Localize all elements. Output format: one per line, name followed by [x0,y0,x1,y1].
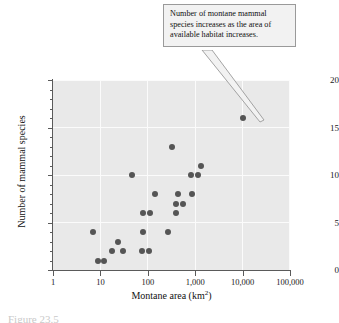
x-axis-tick [148,271,149,276]
data-point [147,210,153,216]
y-axis-tick [48,128,53,129]
y-axis-minor-tick [50,137,53,138]
data-point [175,191,181,197]
data-point [195,172,201,178]
data-point [101,258,107,264]
y-axis-minor-tick [50,204,53,205]
data-point [90,229,96,235]
data-point [173,210,179,216]
x-axis-tick-label: 100 [141,277,154,287]
y-axis-tick [48,175,53,176]
data-point [240,115,246,121]
y-axis-minor-tick [50,185,53,186]
y-axis-minor-tick [50,99,53,100]
data-point [129,172,135,178]
y-axis-tick-label: 0 [293,266,339,275]
y-axis-minor-tick [50,242,53,243]
x-axis-tick [290,271,291,276]
figure-caption: Figure 23.5 [8,313,59,323]
y-axis-minor-tick [50,118,53,119]
gridline-horizontal [53,222,290,223]
x-axis-line [52,270,291,271]
data-point [146,248,152,254]
data-point [140,229,146,235]
data-point [165,229,171,235]
data-point [173,201,179,207]
data-point [180,201,186,207]
x-axis-tick [100,271,101,276]
y-axis-title: Number of mammal species [16,87,27,257]
x-axis-tick-label: 10 [96,277,105,287]
x-axis-tick-label: 100,000 [276,277,304,287]
data-point [139,248,145,254]
y-axis-minor-tick [50,166,53,167]
y-axis-minor-tick [50,90,53,91]
y-axis-minor-tick [50,147,53,148]
y-axis-minor-tick [50,261,53,262]
annotation-text: Number of montane mammal species increas… [170,9,271,39]
data-point [109,248,115,254]
x-axis-tick-label: 1 [51,277,55,287]
y-axis-minor-tick [50,156,53,157]
y-axis-tick-label: 15 [293,124,339,133]
x-axis-tick-label: 10,000 [231,277,254,287]
x-axis-tick [53,271,54,276]
data-point [198,163,204,169]
y-axis-tick [48,80,53,81]
x-axis-title-tail: ) [208,290,211,301]
data-point [152,191,158,197]
data-point [169,144,175,150]
x-axis-tick [243,271,244,276]
y-axis-tick-label: 5 [293,219,339,228]
y-axis-minor-tick [50,213,53,214]
y-axis-tick-label: 20 [293,76,339,85]
plot-area [53,80,290,270]
y-axis-minor-tick [50,251,53,252]
figure-container: 05101520 1101001,00010,000100,000 Number… [0,0,339,323]
data-point [115,239,121,245]
data-point [140,210,146,216]
y-axis-tick [48,223,53,224]
x-axis-tick-label: 1,000 [186,277,205,287]
x-axis-title-text: Montane area (km [131,290,204,301]
y-axis-minor-tick [50,194,53,195]
data-point [189,191,195,197]
y-axis-minor-tick [50,109,53,110]
gridline-horizontal [53,80,290,81]
gridline-horizontal [53,127,290,128]
y-axis-tick-label: 10 [293,171,339,180]
y-axis-minor-tick [50,232,53,233]
x-axis-tick [195,271,196,276]
x-axis-title: Montane area (km2) [53,289,290,301]
data-point [120,248,126,254]
annotation-callout: Number of montane mammal species increas… [163,4,296,47]
gridline-horizontal [53,175,290,176]
data-point [188,172,194,178]
